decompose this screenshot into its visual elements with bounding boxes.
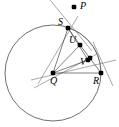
point-label-S: S	[58, 17, 63, 27]
point-marker-V	[86, 58, 91, 63]
geometry-figure: PSUVQR	[0, 0, 119, 127]
point-marker-S	[66, 26, 71, 31]
point-label-R: R	[93, 76, 99, 86]
point-label-P: P	[80, 1, 86, 11]
segments-group	[53, 28, 101, 73]
ray-through-Q-and-R-extended	[31, 60, 116, 80]
segment-Q-S	[53, 28, 68, 73]
point-marker-U	[78, 43, 83, 48]
point-label-U: U	[69, 35, 76, 45]
point-marker-R	[99, 71, 104, 76]
point-label-V: V	[80, 57, 86, 67]
segment-Q-U	[53, 45, 80, 73]
point-marker-P	[72, 5, 77, 10]
point-label-Q: Q	[50, 76, 57, 86]
